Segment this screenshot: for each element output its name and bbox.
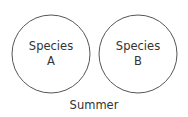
label-species-b: Species B: [108, 39, 168, 69]
label-species-a-line2: A: [21, 54, 81, 69]
label-species-a: Species A: [21, 39, 81, 69]
label-species-b-line2: B: [108, 54, 168, 69]
caption-season: Summer: [0, 98, 188, 112]
label-species-b-line1: Species: [108, 39, 168, 54]
label-species-a-line1: Species: [21, 39, 81, 54]
